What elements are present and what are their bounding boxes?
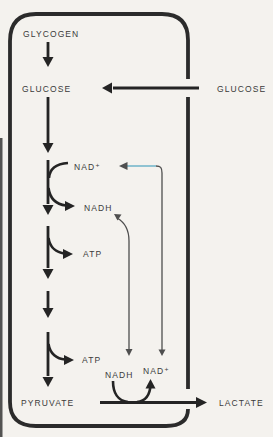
nadh-consumed-curve (113, 381, 128, 402)
glucose-import-arrowhead (102, 83, 112, 94)
glucose-step-arrowhead (43, 143, 54, 153)
lactate-export (100, 379, 207, 408)
atp-one-out-curve (49, 238, 65, 254)
nadh-out-curve (49, 188, 67, 206)
atp-step-two-arrowhead (43, 377, 54, 387)
nad-plus-top-label: NAD⁺ (74, 162, 101, 172)
page-edge-shadow (0, 138, 3, 437)
glycogen-to-glucose-arrowhead (43, 57, 54, 67)
glucose-import (102, 83, 199, 94)
atp-one-out-arrowhead (63, 249, 73, 259)
labels: GLYCOGEN GLUCOSE GLUCOSE NAD⁺ NADH ATP A… (21, 29, 266, 408)
atp-step-one-arrowhead (43, 269, 54, 279)
pyruvate-to-lactate-arrowhead (196, 397, 207, 408)
glucose-inside-label: GLUCOSE (22, 84, 71, 94)
intermediate-step-arrowhead (43, 308, 54, 318)
nadh-out-arrowhead (65, 201, 75, 211)
nad-plus-in-curve (49, 163, 68, 178)
nad-step-arrowhead (43, 205, 54, 215)
atp-first-label: ATP (83, 249, 102, 259)
nadh-recycle-bottom-arrowhead (126, 349, 133, 356)
atp-two-out-curve (49, 344, 66, 360)
nadh-top-label: NADH (84, 203, 113, 213)
nad-plus-return-line (119, 162, 166, 356)
diagram-canvas: GLYCOGEN GLUCOSE GLUCOSE NAD⁺ NADH ATP A… (0, 0, 273, 437)
pyruvate-label: PYRUVATE (21, 398, 74, 408)
glucose-outside-label: GLUCOSE (217, 84, 266, 94)
glycolysis-diagram: GLYCOGEN GLUCOSE GLUCOSE NAD⁺ NADH ATP A… (0, 0, 273, 437)
nad-plus-regenerated-arrowhead (146, 379, 156, 389)
nadh-bottom-label: NADH (105, 370, 134, 380)
nadh-recycle-path (117, 218, 129, 349)
nad-plus-return-path (156, 166, 162, 351)
lactate-label: LACTATE (219, 398, 264, 408)
nad-plus-bottom-label: NAD⁺ (143, 366, 170, 376)
glycogen-label: GLYCOGEN (23, 29, 79, 39)
nadh-recycle-line (114, 214, 133, 356)
nad-plus-return-left-arrowhead (119, 162, 128, 170)
atp-two-out-arrowhead (64, 355, 74, 365)
atp-second-label: ATP (82, 355, 101, 365)
